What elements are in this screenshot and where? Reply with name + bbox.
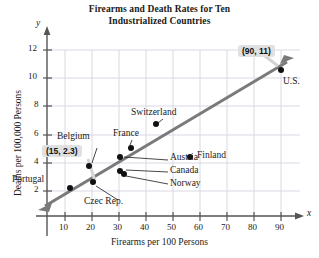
x-tick-50: 50 xyxy=(167,222,176,232)
data-point-portugal xyxy=(67,185,73,191)
point-label-canada: Canada xyxy=(170,165,199,175)
point-label-switzerland: Switzerland xyxy=(131,107,176,117)
scatter-chart: Firearms and Death Rates for Ten Industr… xyxy=(0,0,319,258)
y-tick-8: 8 xyxy=(34,99,39,109)
point-label-finland: Finland xyxy=(197,150,226,160)
y-tick-10: 10 xyxy=(28,71,37,81)
data-point-belgium xyxy=(86,163,92,169)
data-point-austria xyxy=(117,154,123,160)
x-tick-80: 80 xyxy=(248,222,257,232)
x-axis-name: x xyxy=(307,208,311,218)
point-label-portugal: Portugal xyxy=(12,174,44,184)
point-label-austria: Austria xyxy=(170,152,198,162)
data-point-us xyxy=(278,67,284,73)
callout-15-2-3: (15, 2.3) xyxy=(42,145,82,157)
y-axis-name: y xyxy=(36,18,40,28)
x-tick-10: 10 xyxy=(59,222,68,232)
plot-area xyxy=(0,0,319,258)
y-tick-12: 12 xyxy=(28,43,37,53)
data-point-norway xyxy=(121,171,127,177)
y-tick-6: 6 xyxy=(34,128,39,138)
y-tick-4: 4 xyxy=(34,156,39,166)
point-label-us: U.S. xyxy=(283,76,300,86)
data-point-france xyxy=(128,145,134,151)
x-tick-70: 70 xyxy=(221,222,230,232)
x-axis-label: Firearms per 100 Persons xyxy=(0,237,319,247)
x-tick-20: 20 xyxy=(86,222,95,232)
point-label-norway: Norway xyxy=(170,178,201,188)
data-point-czec-rep xyxy=(90,179,96,185)
point-label-belgium: Belgium xyxy=(57,131,90,141)
x-tick-60: 60 xyxy=(194,222,203,232)
point-label-czec-rep: Czec Rep. xyxy=(84,196,123,206)
data-point-switzerland xyxy=(153,121,159,127)
x-tick-40: 40 xyxy=(140,222,149,232)
x-tick-30: 30 xyxy=(113,222,122,232)
callout-90-11: (90, 11) xyxy=(238,45,275,57)
y-tick-2: 2 xyxy=(34,184,39,194)
point-label-france: France xyxy=(113,128,139,138)
x-tick-90: 90 xyxy=(275,222,284,232)
